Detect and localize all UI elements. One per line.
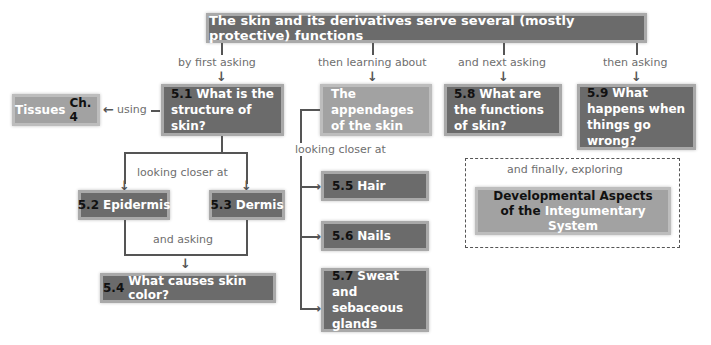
dev-title-3: Integumentary System — [545, 204, 646, 233]
tissues-ref: Ch. 4 — [69, 96, 97, 124]
node-number: 5.2 — [78, 198, 99, 212]
label-first-asking: by first asking — [178, 56, 256, 69]
node-5-2: 5.2Epidermis — [78, 190, 170, 220]
label-using: using — [117, 103, 147, 116]
tissues-label: Tissues — [15, 103, 65, 117]
node-5-1: 5.1What is the structure of skin? — [161, 84, 284, 136]
title-box: The skin and its derivatives serve sever… — [206, 13, 647, 43]
arrow-left-icon: ← — [103, 103, 114, 116]
node-number: 5.1 — [171, 87, 192, 101]
node-number: 5.6 — [332, 229, 353, 243]
node-number: 5.9 — [587, 86, 608, 100]
node-label: Nails — [357, 229, 391, 243]
node-5-4: 5.4What causes skin color? — [100, 273, 276, 303]
arrow-down-icon: ↓ — [367, 70, 378, 83]
connector-line — [636, 43, 638, 55]
connector-line — [124, 152, 247, 154]
node-label: Hair — [357, 179, 385, 193]
arrow-right-icon: → — [310, 302, 321, 315]
arrow-right-icon: → — [310, 180, 321, 193]
node-tissues: Tissues Ch. 4 — [12, 94, 100, 126]
node-5-7: 5.7Sweat and sebaceous glands — [321, 268, 429, 332]
node-number: 5.7 — [332, 269, 353, 283]
node-developmental-aspects: Developmental Aspects of the Integumenta… — [475, 187, 671, 235]
connector-line — [372, 43, 374, 55]
node-number: 5.4 — [103, 281, 124, 295]
label-next-asking: and next asking — [458, 56, 546, 69]
connector-line — [124, 220, 126, 255]
arrow-down-icon: ↓ — [631, 70, 642, 83]
arrow-down-icon: ↓ — [216, 70, 227, 83]
connector-line — [300, 109, 320, 111]
arrow-down-icon: ↓ — [180, 257, 191, 270]
node-label: Epidermis — [103, 198, 170, 212]
label-finally-exploring: and finally, exploring — [507, 163, 623, 176]
node-appendages: The appendages of the skin — [320, 84, 432, 136]
connector-line — [503, 43, 505, 55]
label-looking-closer-mid: looking closer at — [295, 143, 386, 156]
arrow-right-icon: → — [310, 230, 321, 243]
node-5-5: 5.5Hair — [321, 171, 429, 201]
arrow-down-icon: ↓ — [498, 70, 509, 83]
connector-line — [246, 220, 248, 255]
node-label: The appendages of the skin — [331, 86, 421, 134]
title-text: The skin and its derivatives serve sever… — [209, 13, 644, 43]
node-5-6: 5.6Nails — [321, 221, 429, 251]
node-5-8: 5.8What are the functions of skin? — [444, 84, 562, 136]
label-and-asking: and asking — [153, 233, 213, 246]
connector-line — [300, 109, 302, 309]
connector-line — [151, 110, 160, 112]
connector-line — [221, 43, 223, 55]
dev-title-1: Developmental Aspects — [493, 189, 652, 204]
node-number: 5.3 — [210, 198, 231, 212]
label-looking-closer: looking closer at — [137, 166, 228, 179]
connector-line — [221, 136, 223, 153]
node-5-3: 5.3Dermis — [209, 190, 285, 220]
label-then-learning: then learning about — [318, 56, 427, 69]
dev-title-2: of the — [500, 204, 540, 218]
label-then-asking: then asking — [603, 56, 667, 69]
node-label: Dermis — [236, 198, 284, 212]
node-number: 5.5 — [332, 179, 353, 193]
node-label: What causes skin color? — [128, 274, 273, 302]
node-number: 5.8 — [454, 87, 475, 101]
node-5-9: 5.9What happens when things go wrong? — [577, 84, 696, 150]
